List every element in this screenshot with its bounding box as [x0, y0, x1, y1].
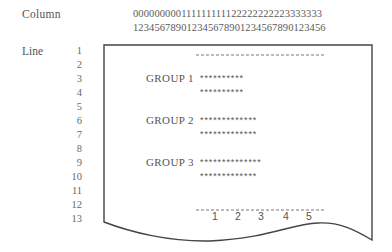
group-3-row-1: **************	[200, 157, 262, 167]
group-2-row-1: *************	[200, 115, 257, 125]
group-1-row-1: **********	[200, 73, 244, 83]
scale-number-1: 1	[212, 210, 218, 222]
group-2-row-2: *************	[200, 129, 257, 139]
scale-number-2: 2	[235, 210, 241, 222]
group-1-row-2: **********	[200, 87, 244, 97]
group-2-label: GROUP 2	[146, 114, 194, 126]
scale-number-4: 4	[283, 210, 289, 222]
group-1-label: GROUP 1	[146, 72, 194, 84]
paper-sheet-outline	[0, 0, 392, 252]
scale-number-3: 3	[258, 210, 264, 222]
group-3-row-2: *************	[200, 171, 257, 181]
scale-number-5: 5	[306, 210, 312, 222]
group-3-label: GROUP 3	[146, 156, 194, 168]
